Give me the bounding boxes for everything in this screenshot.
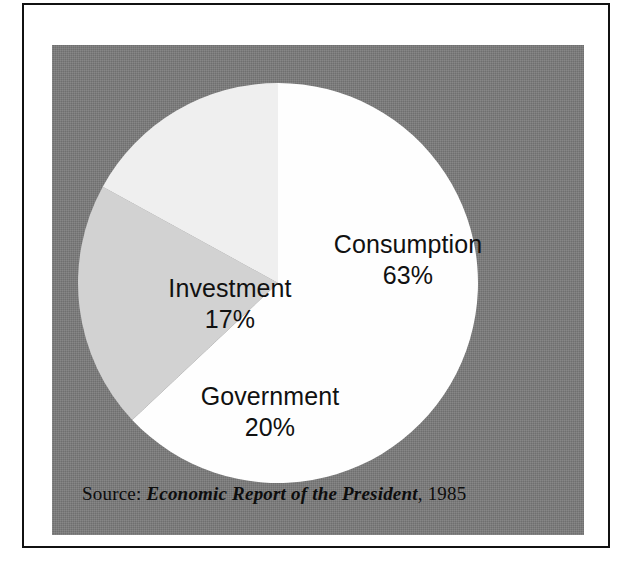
pie-label-consumption-value: 63% (308, 260, 508, 291)
source-year: 1985 (428, 483, 467, 504)
pie-label-government-value: 20% (172, 412, 368, 443)
pie-label-investment: Investment 17% (140, 273, 320, 334)
pie-label-government: Government 20% (172, 381, 368, 442)
pie-label-investment-name: Investment (140, 273, 320, 304)
pie-label-consumption-name: Consumption (308, 229, 508, 260)
pie-label-investment-value: 17% (140, 304, 320, 335)
pie-label-government-name: Government (172, 381, 368, 412)
pie-label-consumption: Consumption 63% (308, 229, 508, 290)
source-caption: Source: Economic Report of the President… (82, 483, 466, 505)
source-title: Economic Report of the President (146, 483, 417, 504)
source-label: Source: (82, 483, 141, 504)
source-separator: , (418, 483, 423, 504)
figure-page: Consumption 63% Investment 17% Governmen… (0, 0, 629, 568)
figure-frame: Consumption 63% Investment 17% Governmen… (22, 3, 610, 548)
chart-plate: Consumption 63% Investment 17% Governmen… (52, 45, 584, 535)
